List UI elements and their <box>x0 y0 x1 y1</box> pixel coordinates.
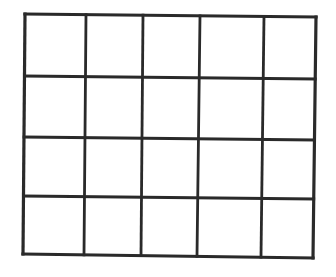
grid-line-horizontal <box>25 76 316 79</box>
grid-border-horizontal <box>25 14 316 17</box>
grid-lines <box>0 0 336 277</box>
grid-line-vertical <box>84 15 86 255</box>
grid-diagram <box>0 0 336 277</box>
grid-line-horizontal <box>24 137 315 140</box>
grid-border-vertical <box>23 14 25 254</box>
grid-border-vertical <box>313 17 316 258</box>
grid-line-vertical <box>141 15 143 255</box>
grid-line-vertical <box>197 16 200 257</box>
grid-line-vertical <box>261 16 264 257</box>
grid-border-horizontal <box>23 254 313 258</box>
grid-line-horizontal <box>24 196 314 199</box>
